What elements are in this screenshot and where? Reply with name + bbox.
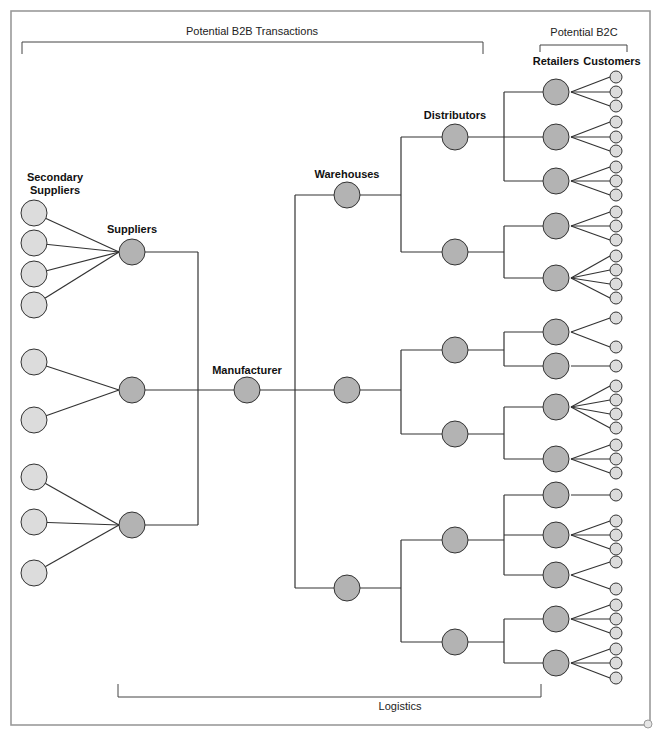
customer-node (610, 360, 622, 372)
supplier-node (119, 239, 145, 265)
customer-edge (571, 605, 610, 619)
customer-node (610, 189, 622, 201)
b2b-label: Potential B2B Transactions (186, 25, 319, 37)
customer-node (610, 543, 622, 555)
customer-node (610, 250, 622, 262)
retailer-node (543, 482, 569, 508)
customer-node (610, 583, 622, 595)
warehouse-node (334, 575, 360, 601)
retailer-node (543, 522, 569, 548)
distributor-node (442, 239, 468, 265)
retailer-node (543, 606, 569, 632)
customer-edge (571, 575, 610, 589)
retailer-node (543, 79, 569, 105)
customer-edge (571, 92, 610, 106)
customer-edge (571, 137, 610, 151)
customer-node (610, 627, 622, 639)
customer-node (610, 292, 622, 304)
customer-node (610, 86, 622, 98)
b2c-bracket: Potential B2C (540, 26, 627, 52)
secondary-supplier-node (21, 349, 47, 375)
secondary-supplier-node (21, 292, 47, 318)
retailer-node (543, 394, 569, 420)
customer-edge (571, 663, 610, 678)
customer-node (610, 71, 622, 83)
retailer-node (543, 650, 569, 676)
logistics-label: Logistics (379, 700, 422, 712)
customer-node (610, 529, 622, 541)
customer-node (610, 439, 622, 451)
customer-node (610, 599, 622, 611)
customer-edge (571, 167, 610, 181)
customer-edge (571, 181, 610, 195)
customer-edge (571, 122, 610, 137)
distributor-node (442, 629, 468, 655)
distributor-node (442, 337, 468, 363)
customer-edge (571, 270, 610, 278)
customer-edge (571, 332, 610, 347)
customer-node (610, 613, 622, 625)
distributor-node (442, 124, 468, 150)
secondary-supplier-node (21, 407, 47, 433)
customer-node (610, 515, 622, 527)
b2c-label: Potential B2C (550, 26, 617, 38)
distributors-label: Distributors (424, 109, 486, 121)
customer-node (610, 556, 622, 568)
secondary-supplier-node (21, 261, 47, 287)
customer-edge (571, 212, 610, 226)
customer-node (610, 489, 622, 501)
customer-edge (571, 535, 610, 549)
customer-node (610, 453, 622, 465)
customer-node (610, 341, 622, 353)
customer-edge (571, 521, 610, 535)
retailer-node (543, 353, 569, 379)
secondary-supplier-edge (34, 525, 119, 573)
retailer-node (543, 213, 569, 239)
secondary-supplier-node (21, 230, 47, 256)
retailer-node (543, 319, 569, 345)
customer-node (610, 380, 622, 392)
customer-edge (571, 459, 610, 473)
customer-node (610, 131, 622, 143)
customer-node (610, 234, 622, 246)
customer-node (610, 278, 622, 290)
customer-edge (571, 256, 610, 278)
customer-node (610, 643, 622, 655)
customer-node (610, 145, 622, 157)
customer-node (610, 672, 622, 684)
customer-edge (571, 562, 610, 575)
retailer-node (543, 562, 569, 588)
manufacturer-node (234, 377, 260, 403)
retailers-label: Retailers (533, 55, 579, 67)
secondary-supplier-node (21, 464, 47, 490)
customer-node (610, 312, 622, 324)
supplier-node (119, 512, 145, 538)
customer-node (610, 264, 622, 276)
secondary-supplier-node (21, 560, 47, 586)
customer-edge (571, 77, 610, 92)
customer-node (610, 220, 622, 232)
customer-edge (571, 318, 610, 332)
customer-edge (571, 445, 610, 459)
secondary-supplier-edge (34, 390, 119, 420)
resize-handle[interactable] (644, 720, 652, 728)
customer-node (610, 467, 622, 479)
b2b-bracket: Potential B2B Transactions (22, 25, 483, 54)
customer-node (610, 657, 622, 669)
customer-node (610, 116, 622, 128)
customer-node (610, 100, 622, 112)
distributor-node (442, 527, 468, 553)
logistics-bracket: Logistics (118, 684, 541, 712)
customer-node (610, 206, 622, 218)
customers-label: Customers (583, 55, 640, 67)
retailer-node (543, 446, 569, 472)
customer-node (610, 422, 622, 434)
retailer-node (543, 168, 569, 194)
customer-node (610, 161, 622, 173)
customer-edge (571, 226, 610, 240)
supply-chain-diagram: Potential B2B Transactions Potential B2C… (0, 0, 657, 740)
manufacturer-label: Manufacturer (212, 364, 282, 376)
distributor-node (442, 421, 468, 447)
supplier-node (119, 377, 145, 403)
nodes (21, 71, 622, 684)
